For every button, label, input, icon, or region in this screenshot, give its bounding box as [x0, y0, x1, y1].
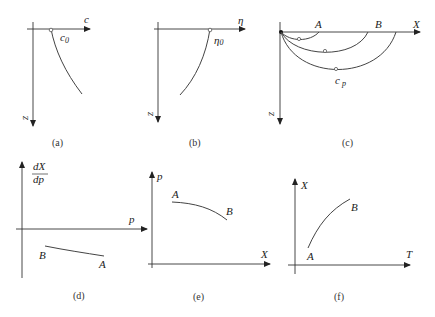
panel-b: η η0 z (b): [143, 14, 245, 149]
ray-marker: [297, 37, 300, 40]
ray-marker: [334, 67, 337, 70]
dp-label: dp: [33, 173, 45, 185]
p-vs-x-curve: [172, 202, 227, 220]
cp-label: cp: [335, 74, 346, 88]
panel-c: A B X cp z (c): [264, 18, 421, 149]
p-axis-label: p: [128, 213, 135, 225]
x-axis-label: X: [300, 179, 309, 191]
caption-c: (c): [342, 137, 353, 149]
ray-marker: [323, 49, 326, 52]
surface-point: [208, 28, 212, 32]
z-axis-label: z: [18, 115, 30, 121]
c-axis-label: c: [84, 13, 89, 25]
z-axis-label: z: [264, 111, 276, 117]
point-b-label: B: [39, 249, 46, 261]
p-axis-label: p: [156, 170, 163, 182]
panel-a: c c0 z (a): [18, 13, 90, 149]
x-vs-t-curve: [308, 199, 350, 248]
caption-b: (b): [189, 137, 201, 149]
dx-label: dX: [33, 160, 47, 172]
point-b-label: B: [351, 201, 358, 213]
point-a-label: A: [306, 250, 314, 262]
point-a-label: A: [171, 188, 179, 200]
eta0-label: η0: [214, 34, 223, 47]
eta-axis-label: η: [238, 14, 243, 26]
point-a-label: A: [98, 258, 106, 270]
caption-a: (a): [52, 137, 63, 149]
caption-d: (d): [73, 290, 85, 302]
point-b-label: B: [226, 205, 233, 217]
figure-canvas: c c0 z (a) η η0 z (b) A B X cp z (c): [0, 0, 435, 317]
c0-label: c0: [60, 31, 69, 45]
caption-e: (e): [193, 291, 204, 303]
panel-e: p A B X (e): [148, 170, 270, 303]
point-a-label: A: [314, 18, 322, 30]
panel-f: X B A T (f): [288, 179, 413, 303]
panel-d: dX dp p B A (d): [16, 160, 147, 302]
dxdp-curve: [45, 246, 104, 256]
surface-point: [49, 28, 53, 32]
x-axis-label: X: [260, 248, 269, 260]
t-axis-label: T: [406, 248, 413, 260]
x-axis-label: X: [412, 18, 421, 30]
caption-f: (f): [334, 291, 344, 303]
z-axis-label: z: [143, 111, 155, 117]
point-b-label: B: [375, 18, 382, 30]
eta-depth-curve: [180, 29, 210, 95]
